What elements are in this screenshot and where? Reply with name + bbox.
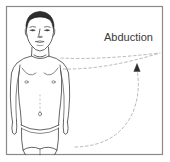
right-thigh [55, 154, 56, 155]
abduction-diagram: Abduction [0, 0, 170, 162]
anatomy-illustration: Abduction [0, 0, 170, 162]
right-eye [45, 30, 50, 32]
left-thigh [25, 154, 26, 155]
abduction-label: Abduction [104, 31, 153, 43]
left-eye [30, 30, 35, 32]
